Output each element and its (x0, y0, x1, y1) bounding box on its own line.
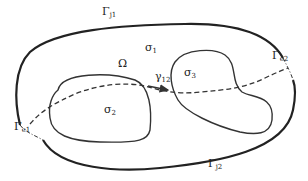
outer-boundary-top (16, 24, 283, 125)
label-gamma-j1: Γj1 (102, 6, 116, 19)
label-omega: Ω (118, 58, 127, 69)
label-sigma1: σ1 (145, 42, 157, 55)
label-gamma-e2: Γe2 (272, 50, 288, 63)
diagram-canvas: Γj1 σ1 Ω γ12 σ3 Γe2 σ2 Γe1 Γj2 (0, 0, 308, 181)
outer-boundary-bottom (43, 80, 295, 170)
label-gamma-e1: Γe1 (14, 121, 30, 134)
diagram-drawing (0, 0, 308, 181)
label-sigma2: σ2 (104, 104, 116, 117)
label-gamma12: γ12 (155, 71, 171, 84)
region-sigma3 (171, 50, 272, 133)
label-sigma3: σ3 (184, 67, 196, 80)
label-gamma-j2: Γj2 (208, 158, 222, 171)
